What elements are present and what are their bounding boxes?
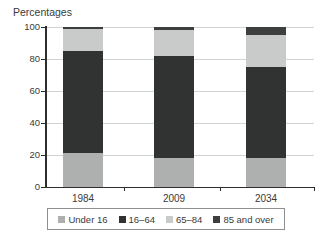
- y-tick-label-100: 100: [4, 21, 40, 32]
- bar-2034: [246, 27, 286, 187]
- bar-segment-2009-Under 16: [154, 158, 194, 187]
- y-tick-label-60: 60: [4, 85, 40, 96]
- x-tick-mark-0: [124, 187, 125, 191]
- legend-items: Under 1616–6465–8485 and over: [58, 214, 273, 225]
- x-tick-mark-2: [314, 187, 315, 191]
- bar-segment-2009-85 and over: [154, 27, 194, 30]
- legend-item-16–64: 16–64: [119, 214, 155, 225]
- bar-segment-2034-Under 16: [246, 158, 286, 187]
- chart-title: Percentages: [13, 6, 72, 18]
- y-tick-mark-0: [41, 187, 45, 188]
- y-tick-mark-100: [41, 27, 45, 28]
- y-tick-mark-20: [41, 155, 45, 156]
- y-tick-mark-40: [41, 123, 45, 124]
- bar-1984: [63, 27, 103, 187]
- legend: Under 1616–6465–8485 and over: [47, 208, 285, 230]
- legend-label: Under 16: [68, 214, 107, 225]
- plot-area: [46, 27, 314, 187]
- legend-item-Under 16: Under 16: [58, 214, 107, 225]
- legend-label: 16–64: [129, 214, 155, 225]
- bar-segment-2009-65–84: [154, 30, 194, 56]
- bar-segment-1984-65–84: [63, 29, 103, 51]
- legend-swatch-icon: [58, 216, 65, 223]
- y-tick-mark-60: [41, 91, 45, 92]
- x-category-label-2034: 2034: [236, 193, 296, 204]
- y-tick-label-0: 0: [4, 181, 40, 192]
- bar-segment-1984-85 and over: [63, 27, 103, 29]
- y-tick-label-20: 20: [4, 149, 40, 160]
- x-category-label-1984: 1984: [53, 193, 113, 204]
- legend-label: 65–84: [176, 214, 202, 225]
- bar-segment-1984-16–64: [63, 51, 103, 153]
- legend-swatch-icon: [166, 216, 173, 223]
- y-tick-label-40: 40: [4, 117, 40, 128]
- bar-segment-2034-65–84: [246, 35, 286, 67]
- bar-2009: [154, 27, 194, 187]
- y-axis-line: [45, 26, 47, 187]
- x-tick-mark-1: [220, 187, 221, 191]
- y-tick-label-80: 80: [4, 53, 40, 64]
- bar-segment-2034-85 and over: [246, 27, 286, 35]
- bar-segment-1984-Under 16: [63, 153, 103, 187]
- y-tick-mark-80: [41, 59, 45, 60]
- legend-item-65–84: 65–84: [166, 214, 202, 225]
- chart-root: Percentages 020406080100 198420092034 Un…: [0, 0, 330, 236]
- legend-swatch-icon: [119, 216, 126, 223]
- bar-segment-2009-16–64: [154, 56, 194, 158]
- legend-label: 85 and over: [223, 214, 273, 225]
- bar-segment-2034-16–64: [246, 67, 286, 158]
- x-category-label-2009: 2009: [144, 193, 204, 204]
- legend-swatch-icon: [213, 216, 220, 223]
- x-axis-line: [45, 187, 315, 189]
- legend-item-85 and over: 85 and over: [213, 214, 273, 225]
